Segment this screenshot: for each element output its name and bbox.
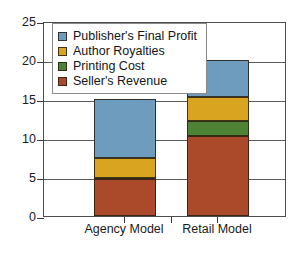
legend-swatch-icon — [58, 77, 67, 86]
y-tick-label-25: 25 — [22, 15, 36, 29]
legend-item-printing-cost[interactable]: Printing Cost — [58, 59, 197, 73]
bar-segment-retail-model-printing-cost[interactable] — [187, 121, 249, 136]
y-tick-25 — [37, 23, 44, 24]
legend-item-label: Printing Cost — [73, 60, 145, 73]
legend-swatch-icon — [58, 47, 67, 56]
y-tick-15 — [37, 101, 44, 102]
legend-item-seller-s-revenue[interactable]: Seller's Revenue — [58, 74, 197, 88]
bar-segment-agency-model-seller-s-revenue[interactable] — [94, 179, 156, 216]
y-tick-5 — [37, 179, 44, 180]
legend-swatch-icon — [58, 32, 67, 41]
legend-item-publisher-s-final-profit[interactable]: Publisher's Final Profit — [58, 29, 197, 43]
y-tick-label-15: 15 — [22, 93, 36, 107]
bar-segment-retail-model-seller-s-revenue[interactable] — [187, 136, 249, 216]
bar-segment-agency-model-author-royalties[interactable] — [94, 158, 156, 178]
legend-item-author-royalties[interactable]: Author Royalties — [58, 44, 197, 58]
y-tick-0 — [37, 218, 44, 219]
y-tick-label-5: 5 — [29, 171, 36, 185]
legend-item-label: Author Royalties — [73, 45, 165, 58]
legend-swatch-icon — [58, 62, 67, 71]
x-axis-label-retail-model: Retail Model — [157, 222, 277, 236]
legend-item-label: Seller's Revenue — [73, 75, 167, 88]
y-tick-10 — [37, 140, 44, 141]
y-tick-label-10: 10 — [22, 132, 36, 146]
legend-item-label: Publisher's Final Profit — [73, 30, 197, 43]
bar-segment-agency-model-publisher-s-final-profit[interactable] — [94, 99, 156, 158]
y-tick-label-20: 20 — [22, 54, 36, 68]
chart-legend: Publisher's Final ProfitAuthor Royalties… — [52, 23, 207, 94]
y-tick-20 — [37, 62, 44, 63]
y-axis-labels: 0510152025 — [0, 0, 36, 254]
y-tick-label-0: 0 — [29, 210, 36, 224]
bar-segment-retail-model-author-royalties[interactable] — [187, 97, 249, 121]
stacked-bar-chart: 0510152025 Agency ModelRetail Model Publ… — [0, 0, 306, 254]
